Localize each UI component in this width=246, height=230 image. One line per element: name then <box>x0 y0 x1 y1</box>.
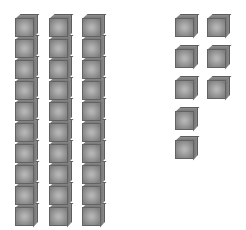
rod-2-cube-6[interactable] <box>49 119 72 142</box>
rod-3[interactable] <box>82 14 105 228</box>
cube-front-face <box>15 39 34 58</box>
cube-front-face <box>175 80 194 99</box>
unit-5[interactable] <box>175 76 198 99</box>
cube-front-face <box>82 18 101 37</box>
cube-front-face <box>82 60 101 79</box>
blocks-canvas <box>0 0 246 230</box>
unit-3[interactable] <box>175 45 198 68</box>
rod-2[interactable] <box>49 14 72 228</box>
cube-front-face <box>49 102 68 121</box>
cube-front-face <box>207 18 226 37</box>
rod-1-cube-1[interactable] <box>15 14 38 37</box>
cube-front-face <box>82 186 101 205</box>
rod-1-cube-10[interactable] <box>15 203 38 226</box>
cube-front-face <box>82 144 101 163</box>
cube-front-face <box>207 80 226 99</box>
rod-1[interactable] <box>15 14 38 228</box>
cube-front-face <box>49 165 68 184</box>
unit-4[interactable] <box>207 45 230 68</box>
rod-2-cube-7[interactable] <box>49 140 72 163</box>
cube-front-face <box>49 207 68 226</box>
rod-3-cube-7[interactable] <box>82 140 105 163</box>
rod-2-cube-9[interactable] <box>49 182 72 205</box>
rod-2-cube-10[interactable] <box>49 203 72 226</box>
cube-front-face <box>15 102 34 121</box>
rod-2-cube-8[interactable] <box>49 161 72 184</box>
unit-2[interactable] <box>207 14 230 37</box>
rod-3-cube-3[interactable] <box>82 56 105 79</box>
cube-front-face <box>15 123 34 142</box>
cube-front-face <box>175 111 194 130</box>
rod-2-cube-4[interactable] <box>49 77 72 100</box>
cube-front-face <box>207 49 226 68</box>
cube-front-face <box>175 140 194 159</box>
rod-1-cube-2[interactable] <box>15 35 38 58</box>
rod-3-cube-1[interactable] <box>82 14 105 37</box>
cube-front-face <box>15 207 34 226</box>
rod-2-cube-5[interactable] <box>49 98 72 121</box>
cube-front-face <box>49 18 68 37</box>
cube-front-face <box>15 18 34 37</box>
cube-front-face <box>49 39 68 58</box>
cube-front-face <box>49 144 68 163</box>
rod-3-cube-4[interactable] <box>82 77 105 100</box>
cube-front-face <box>82 102 101 121</box>
unit-7[interactable] <box>175 107 198 130</box>
cube-front-face <box>49 60 68 79</box>
rod-1-cube-9[interactable] <box>15 182 38 205</box>
rod-2-cube-3[interactable] <box>49 56 72 79</box>
cube-front-face <box>82 165 101 184</box>
unit-1[interactable] <box>175 14 198 37</box>
cube-front-face <box>15 60 34 79</box>
rod-1-cube-6[interactable] <box>15 119 38 142</box>
cube-front-face <box>49 123 68 142</box>
cube-front-face <box>82 207 101 226</box>
cube-front-face <box>49 186 68 205</box>
cube-front-face <box>15 144 34 163</box>
rod-3-cube-5[interactable] <box>82 98 105 121</box>
cube-front-face <box>15 165 34 184</box>
rod-1-cube-8[interactable] <box>15 161 38 184</box>
rod-3-cube-6[interactable] <box>82 119 105 142</box>
rod-1-cube-4[interactable] <box>15 77 38 100</box>
cube-front-face <box>82 81 101 100</box>
cube-front-face <box>15 186 34 205</box>
rod-2-cube-2[interactable] <box>49 35 72 58</box>
unit-8[interactable] <box>175 136 198 159</box>
rod-1-cube-5[interactable] <box>15 98 38 121</box>
rod-1-cube-7[interactable] <box>15 140 38 163</box>
rod-3-cube-10[interactable] <box>82 203 105 226</box>
cube-front-face <box>82 123 101 142</box>
rod-3-cube-2[interactable] <box>82 35 105 58</box>
rod-2-cube-1[interactable] <box>49 14 72 37</box>
cube-front-face <box>49 81 68 100</box>
cube-front-face <box>82 39 101 58</box>
rod-1-cube-3[interactable] <box>15 56 38 79</box>
unit-6[interactable] <box>207 76 230 99</box>
rod-3-cube-8[interactable] <box>82 161 105 184</box>
cube-front-face <box>175 18 194 37</box>
rod-3-cube-9[interactable] <box>82 182 105 205</box>
cube-front-face <box>15 81 34 100</box>
cube-front-face <box>175 49 194 68</box>
